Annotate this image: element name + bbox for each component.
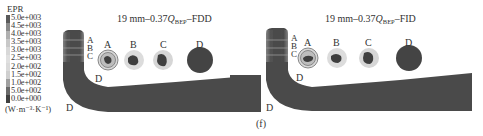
section-label-b: B — [333, 38, 340, 48]
cross-sections-panel-1 — [98, 47, 213, 73]
legend-value: 0.0e+000 — [7, 95, 41, 103]
panel-2-title: 19 mm–0.37QBEP–FID — [325, 13, 416, 25]
pipe-label-c: C — [291, 50, 297, 58]
section-label-a: A — [104, 40, 111, 50]
section-label-a: A — [304, 38, 311, 48]
pipe-label-d-outlet: D — [66, 103, 73, 113]
subfigure-label: (f) — [256, 119, 266, 129]
section-label-d: D — [196, 40, 203, 50]
section-label-b: B — [130, 40, 137, 50]
pipe-label-d-outlet: D — [266, 103, 273, 113]
pipe-stub — [230, 75, 261, 112]
pipe-label-d-elbow: D — [95, 74, 102, 84]
section-label-c: C — [365, 38, 372, 48]
section-label-c: C — [160, 40, 167, 50]
legend-unit: (W·m⁻³·K⁻¹) — [5, 104, 51, 114]
panel-1-title: 19 mm–0.37QBEP–FDD — [117, 13, 212, 25]
pipe-label-c: C — [87, 52, 93, 60]
cross-sections-panel-2 — [298, 45, 422, 71]
section-label-d: D — [405, 38, 412, 48]
pipe-label-d-elbow: D — [296, 73, 303, 83]
legend-values: 5.0e+003 4.5e+003 4.0e+003 3.5e+003 3.0e… — [7, 14, 41, 103]
